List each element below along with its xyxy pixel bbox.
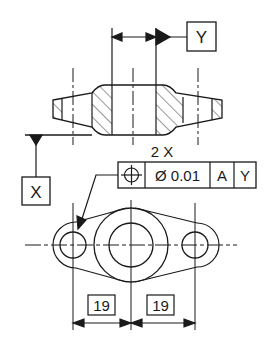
svg-text:Y: Y [196, 28, 207, 47]
plan-view [25, 200, 237, 330]
position-icon [121, 165, 142, 185]
arrowhead-icon [146, 33, 156, 41]
section-view [53, 68, 222, 145]
datum-y-box: Y [187, 22, 216, 51]
arrowhead-icon [77, 216, 86, 229]
svg-text:2 X: 2 X [151, 143, 174, 160]
svg-text:Y: Y [240, 167, 250, 184]
datum-triangle-icon [156, 29, 170, 45]
basic-dimensions: 19 19 [73, 295, 195, 327]
datum-y-dimension [112, 28, 187, 85]
arrowhead-icon [112, 33, 122, 41]
svg-text:Ø 0.01: Ø 0.01 [155, 167, 200, 184]
svg-text:X: X [30, 183, 41, 202]
datum-x: X [22, 135, 92, 205]
svg-text:A: A [217, 167, 227, 184]
svg-text:19: 19 [93, 297, 110, 314]
datum-triangle-icon [30, 135, 42, 145]
svg-text:19: 19 [152, 297, 169, 314]
technical-drawing: Y X [0, 0, 273, 351]
